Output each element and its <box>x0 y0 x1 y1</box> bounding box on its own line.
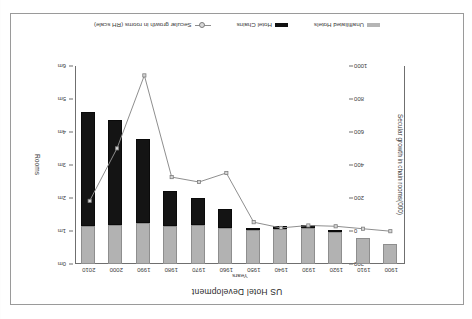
y-right-tickmark <box>69 132 73 133</box>
y-right-tick-3m: 3m <box>58 162 66 168</box>
legend-label: Secular growth in rooms (RH scale) <box>94 22 192 29</box>
line-series-layer <box>76 67 404 264</box>
line-point-1980 <box>170 175 173 178</box>
y-right-tick-0m: 0m <box>58 261 66 267</box>
legend-swatch-icon <box>367 24 380 28</box>
legend-item-3: Secular growth in rooms (RH scale) <box>94 22 211 29</box>
x-axis-title: Years <box>75 273 405 280</box>
plot-area <box>75 66 405 264</box>
legend-item-1: Unaffiliated Hotels <box>314 22 380 29</box>
y-right-tickmark <box>69 198 73 199</box>
line-point-1970 <box>197 180 200 183</box>
y-right-tick-5m: 5m <box>58 96 66 102</box>
scanned-page: US Hotel Development Years 1900191019201… <box>0 0 472 319</box>
x-tick-1910: 1910 <box>357 267 370 273</box>
y-right-tickmark <box>69 66 73 67</box>
x-tick-1960: 1960 <box>220 267 233 273</box>
x-tick-1900: 1900 <box>385 267 398 273</box>
y-right-tickmark <box>69 231 73 232</box>
x-tick-2000: 2000 <box>110 267 123 273</box>
x-tick-1930: 1930 <box>302 267 315 273</box>
y-right-tickmark <box>69 165 73 166</box>
y-right-axis-title: Rooms <box>31 66 45 264</box>
line-point-1920 <box>334 225 337 228</box>
line-point-1960 <box>225 171 228 174</box>
x-tick-1920: 1920 <box>330 267 343 273</box>
x-tick-1980: 1980 <box>165 267 178 273</box>
rotated-chart-container: US Hotel Development Years 1900191019201… <box>0 0 472 319</box>
x-tick-2010: 2010 <box>82 267 95 273</box>
line-marker-icon <box>195 23 211 29</box>
line-point-1900 <box>389 230 392 233</box>
y-right-tick-6m: 6m <box>58 63 66 69</box>
plot-area-wrapper: Secular growth in chain rooms(000) -2000… <box>75 66 405 264</box>
legend-label: Hotel Chains <box>237 22 272 29</box>
y-right-tickmark <box>69 264 73 265</box>
chart-legend: Unaffiliated HotelsHotel ChainsSecular g… <box>11 22 463 29</box>
y-right-axis-title-text: Rooms <box>34 155 41 176</box>
line-point-2000 <box>115 147 118 150</box>
line-point-1940 <box>279 226 282 229</box>
y-right-axis-ticks: 0m1m2m3m4m5m6m <box>43 66 73 264</box>
x-tick-1950: 1950 <box>247 267 260 273</box>
line-point-1990 <box>143 74 146 77</box>
y-right-tickmark <box>69 99 73 100</box>
y-right-tick-1m: 1m <box>58 228 66 234</box>
x-tick-1990: 1990 <box>137 267 150 273</box>
legend-swatch-icon <box>275 24 288 28</box>
line-point-1910 <box>361 227 364 230</box>
x-tick-1970: 1970 <box>192 267 205 273</box>
legend-label: Unaffiliated Hotels <box>314 22 364 29</box>
line-point-1930 <box>307 224 310 227</box>
chart-frame: US Hotel Development Years 1900191019201… <box>10 13 464 305</box>
x-tick-1940: 1940 <box>275 267 288 273</box>
y-right-tick-4m: 4m <box>58 129 66 135</box>
line-point-2010 <box>88 199 91 202</box>
legend-item-2: Hotel Chains <box>237 22 288 29</box>
chart-title: US Hotel Development <box>11 287 463 297</box>
secular-growth-line <box>90 75 391 231</box>
y-right-tick-2m: 2m <box>58 195 66 201</box>
line-point-1950 <box>252 221 255 224</box>
